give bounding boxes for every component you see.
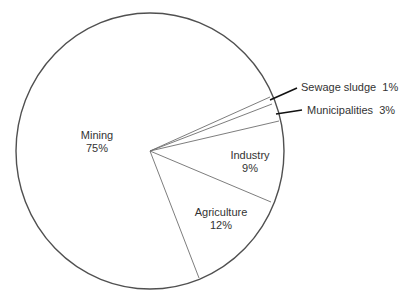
label-sewage-sludge: Sewage sludge 1%: [301, 81, 398, 93]
pie-chart: Mining 75% Industry 9% Agriculture 12% S…: [0, 0, 406, 298]
label-industry-pct: 9%: [242, 162, 258, 174]
label-municipalities: Municipalities 3%: [307, 104, 395, 116]
label-mining-pct: 75%: [86, 142, 108, 154]
leader-line-municipalities: [276, 110, 302, 114]
label-agriculture-pct: 12%: [210, 219, 232, 231]
leader-line-sewage: [270, 88, 297, 100]
label-industry-name: Industry: [230, 149, 270, 161]
label-agriculture-name: Agriculture: [195, 206, 248, 218]
label-mining-name: Mining: [81, 129, 113, 141]
